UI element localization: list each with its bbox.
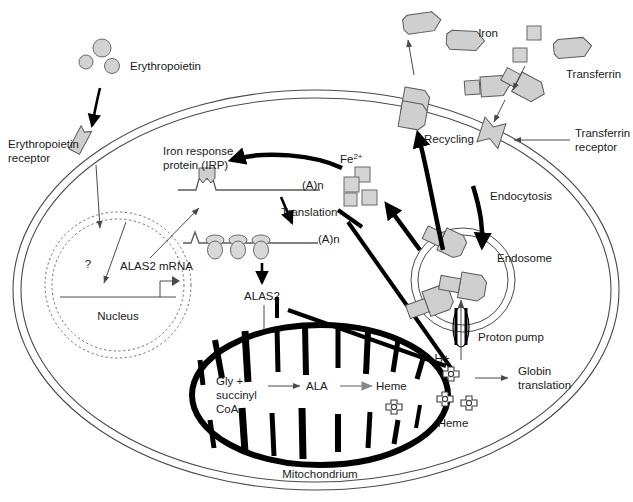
- diagram-canvas: Nucleus ALAS2 mRNA ? Erythropoietin Eryt…: [0, 0, 633, 502]
- globin-label-line2: translation: [518, 379, 571, 391]
- poly-a-label-2: (A)n: [318, 233, 340, 245]
- transferrin-molecules-extracellular: [402, 11, 593, 106]
- alas2-mrna-with-irp: [178, 168, 320, 190]
- epo-receptor-label-line2: receptor: [8, 152, 50, 164]
- transferrin-label: Transferrin: [566, 68, 621, 80]
- transferrin-binding-arrow: [494, 100, 505, 122]
- heme-cytosol-label: Heme: [438, 417, 469, 429]
- ribosome-large-subunit: [208, 241, 223, 259]
- recycling-label: Recycling: [424, 133, 474, 145]
- endocytosis-label: Endocytosis: [490, 190, 552, 202]
- mitochondrium-label: Mitochondrium: [282, 468, 357, 480]
- nucleus: [45, 212, 191, 358]
- erythropoietin-label: Erythropoietin: [130, 60, 201, 72]
- irp-label-line1: Iron response: [163, 145, 233, 157]
- epo-binding-arrow: [92, 88, 100, 126]
- apotransferrin-release-arrow: [408, 40, 414, 75]
- epo-receptor-label-line1: Erythropoietin: [8, 138, 79, 150]
- translating-mrna: [183, 232, 318, 259]
- alas2-protein-label: ALAS2: [244, 290, 280, 302]
- gly-label-line3: CoA: [216, 403, 239, 415]
- gly-label-line2: succinyl: [216, 389, 257, 401]
- transferrin-receptor-label-line2: receptor: [575, 141, 617, 153]
- poly-a-label-1: (A)n: [302, 179, 324, 191]
- irp-label-line2: protein (IRP): [163, 159, 228, 171]
- gly-label-line1: Gly +: [216, 375, 243, 387]
- ala-label: ALA: [306, 380, 328, 392]
- erythropoietin-molecules: [79, 39, 120, 74]
- iron-label: Iron: [478, 27, 498, 39]
- question-mark-label: ?: [85, 258, 91, 270]
- proton-pump-label: Proton pump: [478, 331, 544, 343]
- nucleus-label: Nucleus: [97, 310, 139, 322]
- iron-squares-extracellular: [513, 26, 541, 62]
- heme-mito-label: Heme: [376, 380, 407, 392]
- iron-release-arrow: [387, 205, 420, 250]
- proton-label: H+: [434, 352, 449, 364]
- cell-diagram-svg: Nucleus ALAS2 mRNA ? Erythropoietin Eryt…: [0, 0, 633, 502]
- fe2-to-irp-arrow: [232, 155, 342, 168]
- endosome: [403, 220, 515, 332]
- fe2-iron-pool: [344, 167, 377, 206]
- transferrin-receptor-label-line1: Transferrin: [575, 127, 630, 139]
- transferrin-receptor-membrane: [477, 117, 506, 149]
- proton-pump: [453, 300, 469, 360]
- alas2-mrna-label: ALAS2 mRNA: [120, 260, 193, 272]
- transferrin-receptor-recycling: [398, 87, 431, 131]
- fe2-label: Fe2+: [340, 152, 363, 165]
- nucleus-transcription-arrow: [104, 222, 126, 283]
- endosome-label: Endosome: [497, 252, 552, 264]
- epo-signal-arrow: [96, 165, 100, 228]
- translation-label: Translation: [281, 206, 337, 218]
- globin-label-line1: Globin: [518, 365, 551, 377]
- mrna-export-arrow: [150, 208, 199, 258]
